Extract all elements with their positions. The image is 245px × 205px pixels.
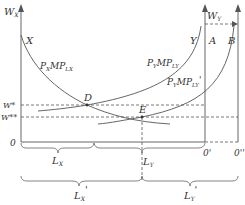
ly-prime-label: LY'	[183, 184, 197, 202]
brace-ly2	[142, 176, 238, 186]
curve-y-label: Y	[190, 35, 198, 46]
py-mply-label: PYMPLY	[146, 58, 180, 69]
wy-shifted-axis-arrow-icon	[235, 4, 241, 12]
brace-lx	[21, 143, 94, 153]
ly-label: LY	[142, 156, 155, 168]
point-a-label: A	[208, 35, 216, 46]
origin-label: 0	[10, 138, 16, 148]
shift-arrow-head-icon	[232, 21, 238, 27]
point-e	[141, 116, 144, 119]
point-e-label: E	[138, 104, 147, 115]
origin-dprime-label: 0''	[234, 148, 245, 158]
wstar2-label: W**	[1, 113, 17, 122]
origin-prime-label: 0'	[203, 148, 211, 158]
lx-prime-label: LX'	[73, 184, 88, 202]
curve-x-label: X	[25, 35, 34, 46]
py-mply-shifted-label: PYMPLY'	[166, 75, 201, 88]
brace-ly	[94, 143, 205, 153]
wx-axis-arrow-icon	[18, 4, 24, 12]
point-d-label: D	[83, 92, 92, 103]
wy-label: WY	[207, 10, 222, 22]
wstar-label: W*	[3, 101, 15, 110]
labor-market-diagram: WX WY X Y A B PXMPLX PYMPLY PYMPLY' D E …	[0, 0, 245, 205]
px-mplx-label: PXMPLX	[39, 61, 74, 72]
point-d	[86, 104, 89, 107]
brace-lx2	[21, 176, 142, 186]
wx-axis-label: WX	[4, 6, 19, 18]
point-b-label: B	[227, 35, 235, 46]
lx-label: LX	[51, 155, 64, 167]
